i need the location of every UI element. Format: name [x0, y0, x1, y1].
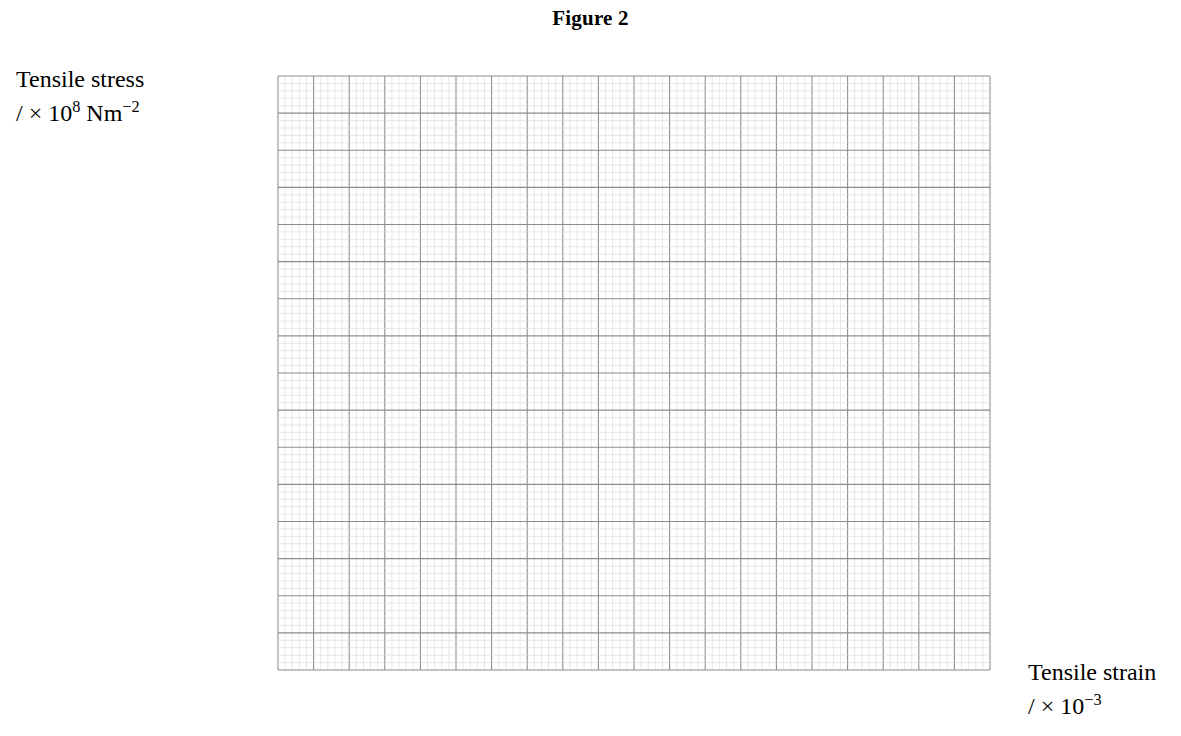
chart-plot-area [0, 0, 1181, 736]
stress-strain-chart-svg [0, 0, 1181, 736]
graph-paper-grid [278, 76, 990, 670]
